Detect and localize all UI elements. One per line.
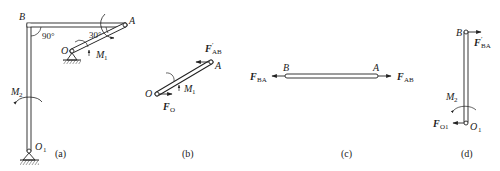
svg-text:AB: AB (212, 48, 222, 56)
bar-BA (27, 23, 125, 27)
svg-text:AB: AB (404, 76, 414, 84)
label-M2: M 2 (445, 91, 458, 104)
panel-b: F ′ AB A O M 1 F O (b) (145, 41, 222, 160)
svg-text:O1: O1 (440, 123, 449, 131)
label-O1: O 1 (35, 141, 47, 154)
svg-text:BA: BA (257, 76, 267, 84)
label-B: B (283, 62, 289, 73)
label-B: B (19, 11, 25, 22)
panel-a: 90° 30° B A O M 1 M 2 O 1 (a) (10, 11, 136, 165)
label-M1: M 1 (183, 83, 196, 96)
svg-text:F: F (432, 118, 440, 129)
label-M1: M 1 (95, 49, 108, 62)
label-FO: F O (162, 101, 175, 114)
label-FAB: F AB (396, 71, 414, 84)
angle-label-30: 30° (89, 30, 102, 40)
label-O: O (61, 45, 68, 56)
caption-d: (d) (461, 148, 473, 160)
caption-c: (c) (341, 148, 352, 160)
svg-text:2: 2 (19, 91, 23, 99)
svg-text:O: O (470, 121, 477, 132)
caption-a: (a) (55, 148, 66, 160)
svg-text:F: F (473, 37, 481, 48)
svg-text:1: 1 (104, 54, 108, 62)
label-O1: O 1 (470, 121, 482, 134)
svg-text:F: F (162, 101, 170, 112)
pin-A (123, 23, 127, 27)
svg-text:F: F (249, 71, 257, 82)
label-A: A (128, 15, 136, 26)
svg-text:1: 1 (43, 146, 47, 154)
moment-arc-M1 (166, 73, 174, 81)
label-A: A (214, 60, 222, 71)
panel-c: B A F BA F AB (c) (249, 62, 414, 160)
mechanism-free-body-diagram: 90° 30° B A O M 1 M 2 O 1 (a) (0, 0, 500, 171)
svg-text:O: O (170, 106, 175, 114)
svg-text:2: 2 (454, 96, 458, 104)
label-FAB-prime: F ′ AB (204, 41, 222, 56)
bar-BA-free-body (285, 74, 378, 78)
label-FBA-prime: F ′ BA (473, 35, 491, 50)
label-A: A (372, 62, 380, 73)
svg-text:BA: BA (481, 42, 491, 50)
svg-text:F: F (396, 71, 404, 82)
label-M2: M 2 (10, 86, 23, 99)
svg-text:1: 1 (192, 88, 196, 96)
bar-O1B-free-body (464, 30, 468, 125)
label-O: O (145, 88, 152, 99)
angle-arc-90 (31, 27, 41, 36)
bar-O1B (27, 24, 31, 151)
svg-text:O: O (35, 141, 42, 152)
svg-text:1: 1 (478, 126, 482, 134)
panel-d: B F ′ BA M 2 F O1 O 1 (d) (432, 27, 491, 160)
caption-b: (b) (182, 148, 194, 160)
angle-label-90: 90° (42, 31, 55, 41)
label-B: B (456, 27, 462, 38)
label-FBA: F BA (249, 71, 267, 84)
label-FO1: F O1 (432, 118, 449, 131)
svg-text:F: F (204, 43, 212, 54)
